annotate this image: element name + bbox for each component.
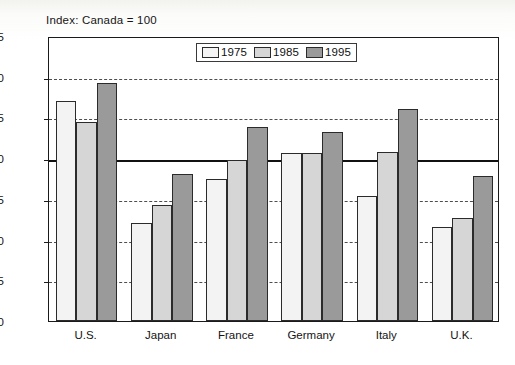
x-tick-label-italy: Italy — [376, 329, 397, 341]
bar-us-1975 — [56, 101, 77, 321]
bar-france-1995 — [247, 127, 268, 321]
bar-italy-1995 — [398, 109, 419, 321]
legend-item-1985: 1985 — [254, 46, 299, 58]
y-tick-mark-150 — [44, 79, 49, 80]
chart-title: Index: Canada = 100 — [46, 14, 157, 26]
bar-italy-1975 — [357, 196, 378, 321]
legend-swatch-icon-1995 — [306, 47, 323, 58]
y-tick-label-150: 150 — [0, 72, 4, 84]
x-tick-label-us: U.S. — [74, 329, 96, 341]
y-tick-mark-50 — [44, 242, 49, 243]
bar-germany-1995 — [322, 132, 343, 321]
x-tick-label-japan: Japan — [145, 329, 176, 341]
bar-japan-1995 — [172, 174, 193, 321]
y-tick-mark-75 — [44, 201, 49, 202]
x-tick-label-france: France — [218, 329, 254, 341]
bar-uk-1975 — [432, 227, 453, 321]
plot-area — [48, 37, 499, 322]
legend-label-1975: 1975 — [221, 46, 247, 58]
chart-legend: 1975 1985 1995 — [196, 43, 357, 62]
legend-swatch-icon-1975 — [202, 47, 219, 58]
bar-italy-1985 — [377, 152, 398, 321]
y-tick-mark-125 — [44, 119, 49, 120]
legend-item-1975: 1975 — [202, 46, 247, 58]
y-tick-label-25: 25 — [0, 275, 4, 287]
x-tick-label-uk: U.K. — [450, 329, 472, 341]
x-tick-label-germany: Germany — [287, 329, 334, 341]
bar-us-1995 — [97, 83, 118, 321]
bar-uk-1995 — [473, 176, 494, 321]
bar-germany-1975 — [281, 153, 302, 321]
legend-item-1995: 1995 — [306, 46, 351, 58]
bar-france-1975 — [206, 179, 227, 321]
bars-layer — [49, 38, 498, 321]
bar-uk-1985 — [452, 218, 473, 321]
bar-japan-1985 — [152, 205, 173, 321]
y-tick-label-75: 75 — [0, 194, 4, 206]
y-tick-mark-100 — [44, 160, 49, 161]
y-tick-mark-25 — [44, 282, 49, 283]
legend-label-1985: 1985 — [273, 46, 299, 58]
bar-germany-1985 — [302, 153, 323, 321]
grouped-bar-chart: Index: Canada = 100 0255075100125150175 … — [0, 0, 515, 365]
y-tick-label-0: 0 — [0, 316, 4, 328]
y-tick-label-125: 125 — [0, 112, 4, 124]
y-tick-label-175: 175 — [0, 31, 4, 43]
legend-swatch-icon-1985 — [254, 47, 271, 58]
bar-us-1985 — [76, 122, 97, 321]
y-tick-label-50: 50 — [0, 235, 4, 247]
bar-japan-1975 — [131, 223, 152, 321]
y-tick-label-100: 100 — [0, 153, 4, 165]
bar-france-1985 — [227, 160, 248, 321]
legend-label-1995: 1995 — [325, 46, 351, 58]
